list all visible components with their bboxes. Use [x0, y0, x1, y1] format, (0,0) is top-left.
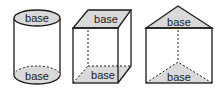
cylinder-bottom-label: base [25, 70, 49, 82]
triangular-prism: base base [146, 6, 212, 83]
prism-top-label: base [167, 16, 191, 28]
box-top-label: base [94, 13, 118, 25]
box-bottom-label: base [91, 69, 115, 81]
prism-bottom-label: base [167, 71, 191, 83]
solids-diagram: base base base base base base [0, 0, 222, 95]
cylinder-top-label: base [25, 12, 49, 24]
rectangular-prism: base base [73, 10, 131, 83]
cylinder: base base [14, 10, 60, 84]
